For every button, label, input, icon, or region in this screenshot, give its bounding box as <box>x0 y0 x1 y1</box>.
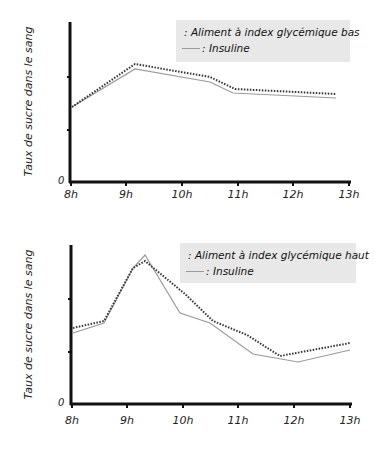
legend-item-insuline: : Insuline <box>186 263 350 279</box>
x-tick-12h: 12h <box>284 414 305 427</box>
x-tick-11h: 11h <box>228 414 249 427</box>
legend-label: : Aliment à index glycémique haut <box>188 249 369 261</box>
chart-high-gi: Taux de sucre dans le sang 0 8h 9h 10h 1… <box>0 0 375 452</box>
plot-area-high-gi <box>0 0 375 452</box>
x-tick-9h: 9h <box>120 414 134 427</box>
x-tick-10h: 10h <box>173 414 194 427</box>
y-zero-label: 0 <box>58 397 64 408</box>
y-axis-label: Taux de sucre dans le sang <box>22 245 35 405</box>
solid-line-swatch-icon <box>186 271 204 272</box>
legend-item-high-gi: : Aliment à index glycémique haut <box>186 247 350 263</box>
x-tick-13h: 13h <box>340 414 361 427</box>
legend-label: : Insuline <box>206 265 254 277</box>
x-tick-8h: 8h <box>65 414 79 427</box>
legend: : Aliment à index glycémique haut : Insu… <box>180 243 356 283</box>
